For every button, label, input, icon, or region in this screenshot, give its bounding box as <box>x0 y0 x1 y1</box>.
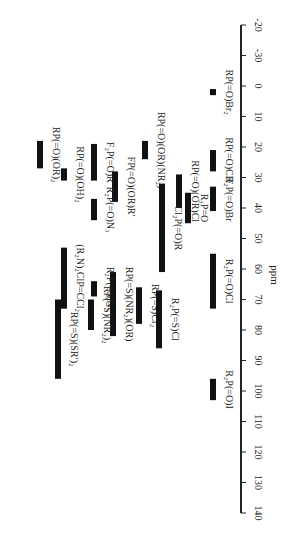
bar-label: R₂P(=O)I <box>223 370 235 409</box>
bar-label: RP(=O)(OR)₂ <box>50 127 62 183</box>
bar-label: (R₂N)₂ClP=CCl₂ <box>74 244 86 312</box>
tick-label: 110 <box>253 414 264 429</box>
chemical-shift-range-chart: -20-300102030405060708090100110120130140… <box>0 0 290 544</box>
tick-label: 120 <box>253 445 264 460</box>
range-bar <box>210 89 216 95</box>
tick-label: 30 <box>253 173 264 183</box>
tick-label: 0 <box>253 84 264 89</box>
tick-label: 140 <box>253 506 264 521</box>
tick-label: 50 <box>253 234 264 244</box>
range-bar <box>136 287 142 324</box>
range-bar <box>210 150 216 171</box>
tick-label: -30 <box>253 49 264 62</box>
tick-label: 130 <box>253 475 264 490</box>
range-bar <box>159 184 165 272</box>
bar-label: R₂P(=O)N₃ <box>104 187 116 233</box>
range-bars: RP(=O)Br₂RP(=O)ClFR₂P(=O)BrR₃P=OR₂P(=O)C… <box>37 69 235 408</box>
bar-label: RP(=O)Br₂ <box>223 69 235 114</box>
bar-label: RP(=O)(OH)₂ <box>74 146 86 202</box>
bar-label: RP(=S)(NR₂)(OR) <box>123 267 135 342</box>
range-bar <box>142 141 148 159</box>
range-bar <box>91 281 97 296</box>
axis-label: ppm <box>269 265 281 285</box>
tick-label: 10 <box>253 112 264 122</box>
bar-label: FP(=O)(OR)R′ <box>125 157 137 217</box>
bar-label: RP(=S)(SR′)₂ <box>68 312 80 367</box>
range-bar <box>156 290 162 348</box>
range-bar <box>61 248 67 309</box>
bar-label: R₂P(=O)Br <box>223 176 235 222</box>
tick-label: 70 <box>253 295 264 305</box>
tick-label: 40 <box>253 203 264 213</box>
range-bar <box>176 174 182 208</box>
tick-label: -20 <box>253 18 264 31</box>
range-bar <box>88 300 94 331</box>
range-bar <box>210 254 216 309</box>
bar-label: R₂P(=S)Cl <box>169 298 181 341</box>
range-bar <box>210 379 216 400</box>
bar-label: R₂P(=O)Cl <box>223 259 235 304</box>
tick-label: 20 <box>253 142 264 152</box>
range-bar <box>91 144 97 181</box>
tick-label: 60 <box>253 264 264 274</box>
range-bar <box>55 300 61 379</box>
bar-label: R₂P(=S)N₃ <box>104 267 116 311</box>
bar-label: Cl₂P(=O)R <box>172 205 184 250</box>
range-bar <box>91 199 97 220</box>
bar-label: RP(=O)(OR)(NR₂) <box>155 112 167 188</box>
bar-label: RP(=O)(OR)Cl <box>189 160 201 222</box>
tick-label: 90 <box>253 356 264 366</box>
range-bar <box>37 141 43 168</box>
tick-label: 80 <box>253 325 264 335</box>
tick-label: 100 <box>253 384 264 399</box>
bar-label: F₂P(=O)R <box>104 142 116 183</box>
ppm-axis: -20-300102030405060708090100110120130140… <box>241 18 281 520</box>
